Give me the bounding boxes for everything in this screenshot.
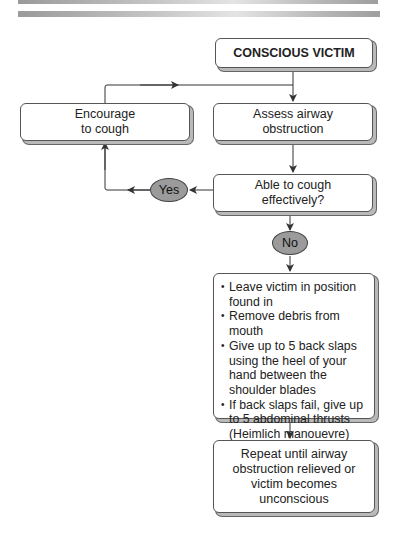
node-decision-cough-effectively: Able to cough effectively? <box>213 174 373 212</box>
branch-no: No <box>272 231 308 255</box>
node-repeat-line-4: unconscious <box>259 492 329 506</box>
connector-yes-to-encourage <box>105 143 150 190</box>
action-item: Give up to 5 back slaps using the heel o… <box>221 339 368 398</box>
node-repeat-label: Repeat until airway obstruction relieved… <box>233 447 356 507</box>
node-repeat-line-1: Repeat until airway <box>241 447 347 461</box>
node-encourage-line-2: to cough <box>81 122 129 136</box>
node-assess-label: Assess airway obstruction <box>253 107 333 137</box>
action-item: Remove debris from mouth <box>221 309 368 338</box>
node-decision-label: Able to cough effectively? <box>255 178 331 208</box>
node-decision-line-1: Able to cough <box>255 178 331 192</box>
branch-no-label: No <box>282 236 298 250</box>
connector-encourage-to-main <box>105 85 293 103</box>
node-encourage-to-cough: Encourage to cough <box>20 103 190 141</box>
action-item: Leave victim in position found in <box>221 280 368 309</box>
node-assess-line-1: Assess airway <box>253 107 333 121</box>
node-decision-line-2: effectively? <box>262 193 324 207</box>
node-repeat-until-relieved: Repeat until airway obstruction relieved… <box>213 440 375 513</box>
branch-yes-label: Yes <box>159 183 179 197</box>
branch-yes: Yes <box>150 178 188 202</box>
node-repeat-line-2: obstruction relieved or <box>233 462 356 476</box>
node-assess-line-2: obstruction <box>262 122 323 136</box>
node-assess-airway: Assess airway obstruction <box>213 103 373 141</box>
actions-list: Leave victim in position found in Remove… <box>221 280 368 442</box>
node-encourage-line-1: Encourage <box>75 107 135 121</box>
node-repeat-line-3: victim becomes <box>251 477 337 491</box>
node-encourage-label: Encourage to cough <box>75 107 135 137</box>
action-item: If back slaps fail, give up to 5 abdomin… <box>221 398 368 442</box>
node-conscious-victim: CONSCIOUS VICTIM <box>215 38 373 68</box>
node-actions-list: Leave victim in position found in Remove… <box>213 273 375 419</box>
node-conscious-victim-label: CONSCIOUS VICTIM <box>233 46 355 61</box>
